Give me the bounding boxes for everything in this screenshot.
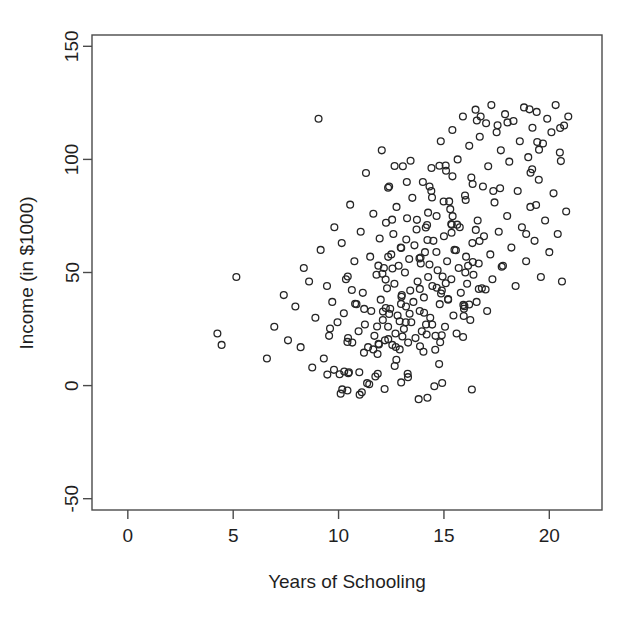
y-tick-label: 0	[62, 380, 83, 391]
x-axis-title: Years of Schooling	[268, 571, 426, 592]
y-tick-label: -50	[62, 485, 83, 512]
x-tick-label: 20	[539, 525, 560, 546]
x-tick-label: 0	[123, 525, 134, 546]
y-tick-label: 100	[62, 144, 83, 176]
plot-canvas: 05101520 -50050100150 Years of Schooling…	[0, 0, 635, 617]
x-tick-label: 15	[433, 525, 454, 546]
scatter-plot-figure: 05101520 -50050100150 Years of Schooling…	[0, 0, 635, 617]
y-tick-label: 50	[62, 262, 83, 283]
x-tick-label: 10	[328, 525, 349, 546]
x-tick-label: 5	[228, 525, 239, 546]
y-axis-title: Income (in $1000)	[16, 196, 37, 349]
y-tick-label: 150	[62, 30, 83, 62]
